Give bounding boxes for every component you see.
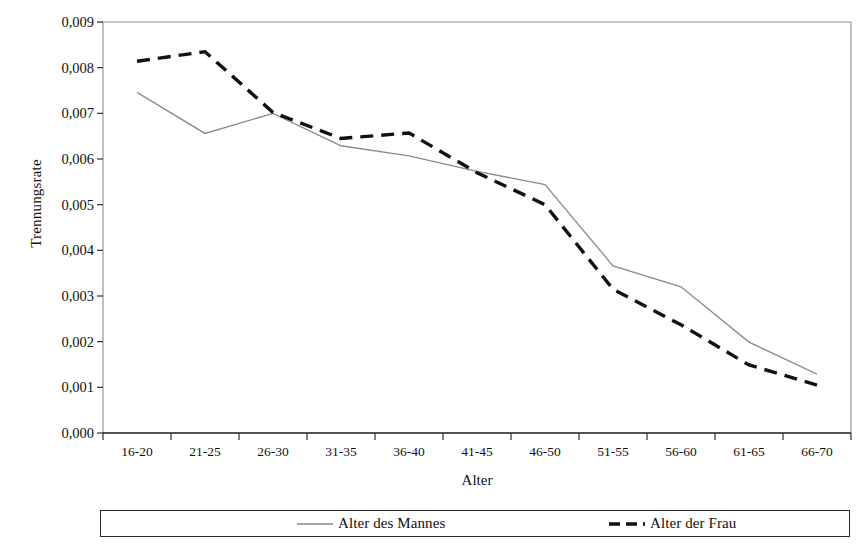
legend-label-alter-der-frau: Alter der Frau xyxy=(650,515,736,532)
series-line-alter-der-frau xyxy=(137,52,817,385)
legend-swatch-dashed-line xyxy=(609,518,645,530)
x-axis-title: Alter xyxy=(103,472,851,489)
x-tick-label: 61-65 xyxy=(714,445,784,459)
legend-label-alter-des-mannes: Alter des Mannes xyxy=(338,515,445,532)
legend-entry-alter-des-mannes: Alter des Mannes xyxy=(297,511,445,536)
separation-rate-by-age-chart: Trennungsrate 0,0000,0010,0020,0030,0040… xyxy=(0,0,868,558)
chart-legend: Alter des Mannes Alter der Frau xyxy=(100,510,850,537)
x-tick-label: 51-55 xyxy=(578,445,648,459)
series-line-alter-des-mannes xyxy=(137,92,817,374)
legend-entry-alter-der-frau: Alter der Frau xyxy=(609,511,736,536)
x-tick-label: 36-40 xyxy=(374,445,444,459)
x-tick-label: 21-25 xyxy=(170,445,240,459)
legend-swatch-solid-line xyxy=(297,518,333,530)
x-tick-label: 41-45 xyxy=(442,445,512,459)
x-tick-label: 66-70 xyxy=(782,445,852,459)
x-tick-label: 26-30 xyxy=(238,445,308,459)
x-tick-label: 56-60 xyxy=(646,445,716,459)
x-tick-label: 16-20 xyxy=(102,445,172,459)
plot-area xyxy=(0,0,868,500)
x-tick-label: 46-50 xyxy=(510,445,580,459)
x-axis-tick-labels: 16-2021-2526-3031-3536-4041-4546-5051-55… xyxy=(0,445,868,469)
x-tick-label: 31-35 xyxy=(306,445,376,459)
